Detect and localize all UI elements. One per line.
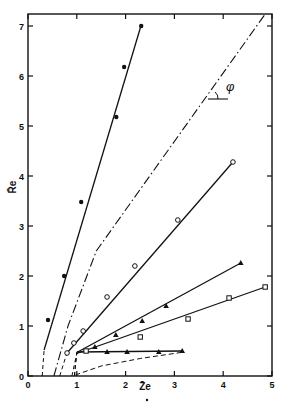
open-square-marker — [227, 296, 231, 300]
filled-circle-marker — [79, 200, 83, 204]
x-tick-label: 5 — [269, 380, 274, 390]
y-axis-label: R̄e — [7, 180, 18, 193]
open-square-marker — [138, 335, 142, 339]
phi-label: φ — [226, 79, 235, 94]
y-tick-label: 3 — [19, 222, 24, 232]
open-square-marker — [186, 317, 190, 321]
open-square-marker — [263, 285, 267, 289]
y-tick-label: 1 — [19, 322, 24, 332]
chart: 01234567012345R̄eZ̄eφ — [0, 0, 287, 403]
plot-frame — [28, 14, 272, 376]
dashed-curve — [75, 352, 184, 375]
dashed-extension — [42, 350, 44, 376]
open-circle-marker — [65, 351, 70, 356]
series-lines — [42, 14, 265, 376]
axis-ticks — [28, 14, 272, 376]
fit-line — [44, 25, 141, 350]
filled-circle-marker — [46, 318, 50, 322]
y-tick-label: 6 — [19, 72, 24, 82]
y-tick-label: 0 — [19, 372, 24, 382]
filled-circle-marker — [62, 274, 66, 278]
open-circle-marker — [81, 329, 86, 334]
x-tick-label: 4 — [221, 380, 226, 390]
dashed-extension — [60, 353, 67, 376]
y-tick-label: 2 — [19, 272, 24, 282]
open-circle-marker — [231, 160, 236, 165]
open-circle-marker — [105, 295, 110, 300]
y-tick-label: 4 — [19, 172, 24, 182]
x-tick-label: 1 — [74, 380, 79, 390]
open-square-marker — [84, 349, 88, 353]
plot-border — [28, 14, 272, 376]
filled-circle-marker — [122, 65, 126, 69]
dot-mark — [146, 399, 148, 401]
filled-triangle-marker — [139, 318, 145, 323]
open-circle-marker — [133, 264, 138, 269]
x-tick-label: 0 — [25, 380, 30, 390]
x-tick-label: 3 — [172, 380, 177, 390]
axis-labels: 01234567012345R̄eZ̄eφ — [7, 22, 275, 401]
y-tick-label: 5 — [19, 122, 24, 132]
angle-arc — [215, 92, 218, 99]
filled-triangle-marker — [238, 260, 244, 265]
series-markers — [46, 24, 268, 356]
reference-dash-dot-line — [54, 14, 265, 376]
open-circle-marker — [176, 218, 181, 223]
filled-circle-marker — [114, 115, 118, 119]
x-axis-label: Z̄e — [139, 381, 151, 392]
filled-circle-marker — [139, 24, 143, 28]
y-tick-label: 7 — [19, 22, 24, 32]
open-circle-marker — [72, 341, 77, 346]
x-tick-label: 2 — [123, 380, 128, 390]
fit-line — [77, 263, 241, 353]
fit-line — [77, 351, 182, 352]
